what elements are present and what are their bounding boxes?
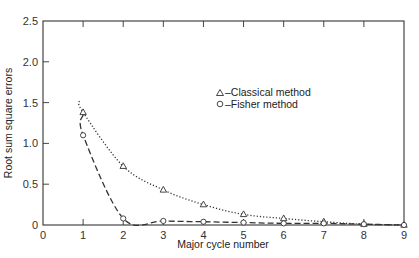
x-axis-title: Major cycle number bbox=[177, 238, 269, 250]
y-tick-label: 0 bbox=[32, 219, 38, 231]
circle-marker-icon bbox=[361, 222, 366, 227]
y-tick-label: 1.5 bbox=[23, 97, 38, 109]
circle-marker-icon bbox=[201, 219, 206, 224]
legend-item-classical: –Classical method bbox=[217, 86, 311, 98]
y-tick-label: 0.5 bbox=[23, 178, 38, 190]
x-tick-label: 1 bbox=[80, 229, 86, 241]
plot-axes bbox=[43, 21, 404, 225]
legend: –Classical method –Fisher method bbox=[217, 86, 311, 110]
data-markers bbox=[80, 109, 407, 228]
x-tick-label: 8 bbox=[361, 229, 367, 241]
x-tick-label: 7 bbox=[321, 229, 327, 241]
classical-method-curve bbox=[79, 101, 404, 225]
circle-marker-icon bbox=[217, 101, 223, 107]
x-tick-label: 9 bbox=[401, 229, 407, 241]
circle-marker-icon bbox=[321, 221, 326, 226]
y-axis-title: Root sum square errors bbox=[2, 68, 14, 178]
x-tick-label: 6 bbox=[281, 229, 287, 241]
y-tick-label: 1.0 bbox=[23, 137, 38, 149]
triangle-marker-icon bbox=[217, 90, 224, 96]
y-axis-ticks: 00.51.01.52.02.5 bbox=[23, 15, 49, 231]
circle-marker-icon bbox=[161, 218, 166, 223]
legend-item-fisher: –Fisher method bbox=[217, 98, 298, 110]
x-tick-label: 2 bbox=[120, 229, 126, 241]
circle-marker-icon bbox=[401, 222, 406, 227]
circle-marker-icon bbox=[121, 216, 126, 221]
triangle-marker-icon bbox=[280, 215, 286, 221]
triangle-marker-icon bbox=[80, 109, 86, 115]
fisher-method-curve bbox=[80, 115, 404, 226]
legend-label-fisher: –Fisher method bbox=[225, 98, 298, 110]
x-tick-label: 0 bbox=[40, 229, 46, 241]
triangle-marker-icon bbox=[120, 163, 126, 169]
circle-marker-icon bbox=[241, 220, 246, 225]
y-tick-label: 2.0 bbox=[23, 56, 38, 68]
data-series bbox=[79, 101, 404, 225]
circle-marker-icon bbox=[281, 221, 286, 226]
triangle-marker-icon bbox=[160, 186, 166, 192]
chart: 00.51.01.52.02.5 0123456789 Major cycle … bbox=[0, 0, 419, 258]
circle-marker-icon bbox=[81, 133, 86, 138]
legend-label-classical: –Classical method bbox=[225, 86, 311, 98]
y-tick-label: 2.5 bbox=[23, 15, 38, 27]
x-axis-ticks: 0123456789 bbox=[40, 21, 407, 241]
plot-frame bbox=[43, 21, 404, 225]
x-tick-label: 3 bbox=[160, 229, 166, 241]
